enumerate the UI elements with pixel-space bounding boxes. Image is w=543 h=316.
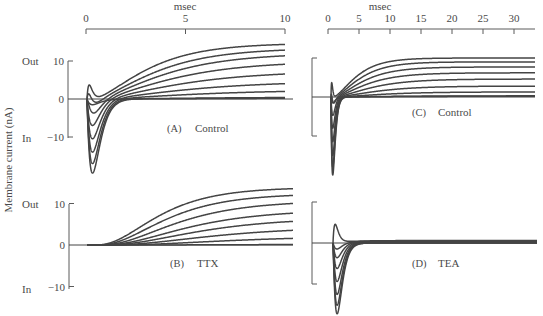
panel-c-trace-8 [331, 96, 535, 175]
panel-c-trace-7 [331, 92, 535, 167]
panel-b-out-label: Out [22, 198, 39, 210]
panel-a-traces [87, 44, 285, 173]
y-tick-label: −10 [48, 281, 66, 293]
panel-d-letter: (D) [412, 258, 427, 270]
x-tick-label: 25 [478, 12, 490, 24]
panel-d-trace-5 [333, 242, 537, 281]
x-tick-label: 5 [183, 12, 189, 24]
x-tick-label: 20 [447, 12, 459, 24]
panel-d-trace-8 [333, 243, 537, 314]
panel-c-x-axis-title: msec [369, 0, 392, 12]
panel-b-in-label: In [22, 283, 32, 295]
y-tick-label: 0 [59, 93, 65, 105]
panel-c-traces [331, 58, 535, 175]
panel-a-out-label: Out [22, 55, 39, 67]
x-tick-label: 0 [83, 12, 89, 24]
panel-c-x-axis: 051015202530 [325, 12, 535, 34]
panel-d-trace-6 [333, 243, 537, 295]
x-tick-label: 30 [509, 12, 521, 24]
panel-b-traces [87, 189, 293, 245]
panel-a-title: Control [195, 122, 229, 134]
panel-c: msec 051015202530 (C) Control [312, 0, 535, 175]
panel-a-trace-7 [87, 91, 285, 163]
x-tick-label: 5 [356, 12, 362, 24]
panel-a: msec 0510 100−10 Out In (A) Control [22, 0, 293, 173]
panel-b: 100−10 Out In (B) TTX [22, 189, 293, 295]
x-tick-label: 10 [385, 12, 397, 24]
figure-canvas: Membrane current (nA) msec 0510 100−10 O… [0, 0, 543, 316]
panel-b-title: TTX [197, 257, 218, 269]
panel-d-trace-1 [333, 224, 537, 243]
panel-a-x-axis: 0510 [83, 12, 291, 34]
panel-b-letter: (B) [170, 258, 185, 270]
panel-d-trace-7 [333, 243, 537, 305]
panel-c-trace-5 [331, 79, 535, 142]
y-tick-label: 10 [54, 198, 66, 210]
panel-d: (D) TEA [312, 202, 537, 314]
x-tick-label: 10 [280, 12, 292, 24]
panel-d-trace-4 [333, 242, 537, 269]
x-tick-label: 0 [325, 12, 331, 24]
panel-a-x-axis-title: msec [174, 0, 197, 12]
panel-d-traces [333, 224, 537, 314]
panel-a-letter: (A) [167, 123, 182, 135]
y-tick-label: 10 [53, 55, 65, 67]
panel-d-title: TEA [438, 257, 459, 269]
x-tick-label: 15 [416, 12, 428, 24]
panel-c-letter: (C) [412, 107, 427, 119]
panel-a-trace-8 [87, 98, 285, 174]
y-tick-label: 0 [60, 239, 66, 251]
panel-a-in-label: In [22, 132, 32, 144]
y-axis-title: Membrane current (nA) [2, 107, 15, 212]
panel-a-trace-5 [87, 74, 285, 139]
panel-c-trace-4 [331, 73, 535, 128]
panel-c-title: Control [438, 106, 472, 118]
y-tick-label: −10 [47, 131, 65, 143]
